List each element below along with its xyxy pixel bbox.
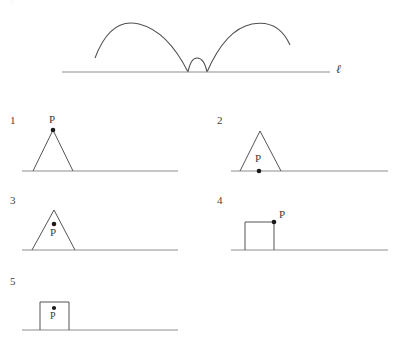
option-2-triangle	[240, 131, 281, 171]
option-2-point-label: P	[255, 153, 261, 164]
option-3-point-label: P	[50, 227, 56, 238]
option-2-number: 2	[217, 115, 223, 126]
option-5-point-label: P	[50, 311, 56, 321]
option-3-group	[22, 210, 178, 250]
option-1-point-dot	[51, 128, 56, 133]
top-diagram-line-label: ℓ	[336, 63, 341, 75]
option-4-point-dot	[272, 220, 277, 225]
option-5-group	[22, 302, 178, 330]
option-4-number: 4	[217, 195, 223, 206]
arch-large-right	[207, 23, 290, 72]
option-3-number: 3	[10, 195, 16, 206]
option-4-square	[245, 222, 274, 250]
option-1-number: 1	[10, 115, 16, 126]
option-1-point-label: P	[49, 114, 55, 125]
option-4-point-label: P	[279, 209, 285, 220]
option-1-group	[22, 128, 178, 171]
option-4-group	[231, 220, 388, 250]
figure-canvas: · · | · · · · · ·	[0, 0, 410, 347]
arch-large-left	[95, 23, 188, 72]
geometry-layer	[0, 0, 410, 347]
top-diagram-group	[62, 23, 330, 72]
option-1-triangle	[33, 130, 73, 171]
option-2-point-dot	[257, 169, 262, 174]
arch-small-middle	[188, 58, 207, 72]
option-5-number: 5	[10, 276, 16, 287]
